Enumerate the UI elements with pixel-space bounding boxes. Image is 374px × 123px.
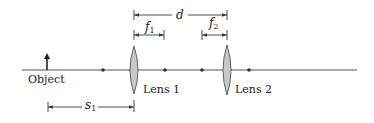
dimension-f1-label: f1: [144, 20, 155, 35]
focal-point-f1-left: [101, 68, 105, 72]
dimension-d-label: d: [176, 8, 184, 22]
f1-subscript: 1: [149, 26, 154, 35]
lens-2-label: Lens 2: [235, 83, 272, 96]
lens-1-shape: [130, 46, 138, 94]
dimension-s1-label: s1: [85, 98, 96, 113]
two-lens-diagram: Object Lens 1 Lens 2 d f1: [0, 0, 374, 123]
object-label: Object: [28, 73, 65, 86]
lens-2-shape: [223, 45, 231, 95]
s1-subscript: 1: [91, 104, 96, 113]
focal-point-f2-left: [200, 68, 204, 72]
object-arrow-icon: [44, 53, 50, 70]
dimension-f2: [202, 30, 227, 40]
dimension-f2-label: f2: [208, 16, 219, 31]
focal-point-f1-right: [163, 68, 167, 72]
lens-1-label: Lens 1: [143, 83, 180, 96]
f2-subscript: 2: [213, 22, 218, 31]
focal-point-f2-right: [247, 68, 251, 72]
